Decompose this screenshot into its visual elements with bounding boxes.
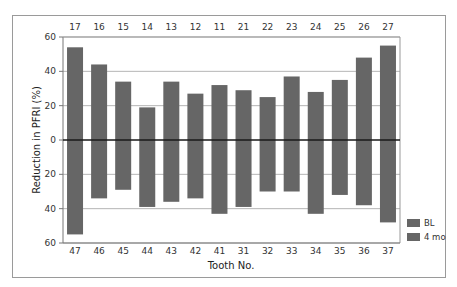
- bar-lower: [211, 140, 227, 214]
- bar-upper: [380, 46, 396, 140]
- bar-lower: [308, 140, 324, 214]
- bar-lower: [260, 140, 276, 192]
- y-tick-labels: 6040200204060: [45, 32, 57, 248]
- legend: BL 4 mo: [407, 218, 446, 242]
- bar-lower: [67, 140, 83, 234]
- y-tick: 40: [45, 66, 57, 76]
- axes: [59, 37, 400, 243]
- legend-label-bl: BL: [424, 218, 435, 228]
- bar-upper: [236, 90, 252, 140]
- x-bottom-tick: 43: [166, 246, 177, 256]
- x-top-tick: 17: [69, 22, 80, 32]
- x-bottom-tick: 42: [190, 246, 201, 256]
- bar-lower: [236, 140, 252, 207]
- bar-lower: [163, 140, 179, 202]
- bar-upper: [211, 85, 227, 140]
- legend-swatch-bl: [407, 219, 420, 227]
- x-top-tick: 26: [358, 22, 370, 32]
- x-top-tick: 16: [93, 22, 105, 32]
- x-bottom-tick: 41: [214, 246, 225, 256]
- y-tick: 20: [45, 101, 57, 111]
- x-top-tick: 21: [238, 22, 249, 32]
- x-bottom-tick: 35: [334, 246, 345, 256]
- bar-lower: [187, 140, 203, 198]
- bar-chart: 6040200204060 17161514131211212223242526…: [0, 0, 457, 287]
- y-tick: 20: [45, 169, 57, 179]
- bar-lower: [284, 140, 300, 192]
- x-bottom-tick: 37: [382, 246, 393, 256]
- x-top-tick-labels: 1716151413121121222324252627: [69, 22, 393, 32]
- bar-lower: [91, 140, 107, 198]
- x-top-tick: 11: [214, 22, 225, 32]
- x-bottom-tick: 31: [238, 246, 249, 256]
- x-bottom-tick: 46: [93, 246, 105, 256]
- x-bottom-tick: 45: [117, 246, 128, 256]
- bar-upper: [91, 64, 107, 140]
- x-top-tick: 15: [117, 22, 128, 32]
- x-top-tick: 23: [286, 22, 297, 32]
- bar-upper: [187, 94, 203, 140]
- x-top-tick: 25: [334, 22, 345, 32]
- bar-upper: [284, 76, 300, 140]
- y-axis-label: Reduction in PFRI (%): [31, 86, 42, 194]
- bar-lower: [139, 140, 155, 207]
- bar-upper: [139, 107, 155, 140]
- y-tick: 40: [45, 204, 57, 214]
- x-top-tick: 14: [142, 22, 154, 32]
- x-bottom-tick-labels: 4746454443424131323334353637: [69, 246, 393, 256]
- x-top-tick: 22: [262, 22, 273, 32]
- x-top-tick: 12: [190, 22, 201, 32]
- bar-upper: [115, 82, 131, 140]
- bar-lower: [332, 140, 348, 195]
- bar-upper: [332, 80, 348, 140]
- bar-lower: [356, 140, 372, 205]
- x-top-tick: 24: [310, 22, 322, 32]
- x-bottom-tick: 34: [310, 246, 322, 256]
- bar-upper: [356, 58, 372, 140]
- y-tick: 60: [45, 32, 57, 42]
- x-top-tick: 13: [166, 22, 177, 32]
- y-tick: 0: [50, 135, 56, 145]
- x-bottom-tick: 33: [286, 246, 297, 256]
- x-top-tick: 27: [382, 22, 393, 32]
- x-bottom-tick: 47: [69, 246, 80, 256]
- legend-label-4mo: 4 mo: [424, 232, 446, 242]
- legend-swatch-4mo: [407, 233, 420, 241]
- x-bottom-tick: 32: [262, 246, 273, 256]
- bar-upper: [308, 92, 324, 140]
- bar-upper: [67, 47, 83, 140]
- x-bottom-tick: 44: [142, 246, 154, 256]
- bar-lower: [115, 140, 131, 190]
- bar-upper: [163, 82, 179, 140]
- bar-lower: [380, 140, 396, 222]
- x-bottom-tick: 36: [358, 246, 370, 256]
- y-tick: 60: [45, 238, 57, 248]
- x-axis-label: Tooth No.: [207, 260, 255, 271]
- bar-upper: [260, 97, 276, 140]
